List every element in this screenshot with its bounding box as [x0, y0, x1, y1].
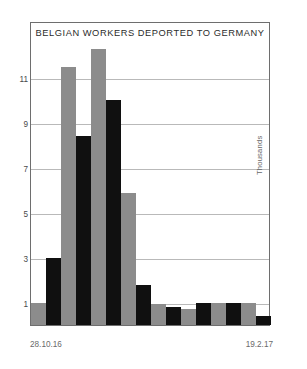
y-tick-label: 11 [6, 74, 28, 83]
y-tick-label: 3 [6, 254, 28, 263]
bar [211, 303, 226, 325]
page-title: BELGIAN WORKERS DEPORTED TO GERMANY [36, 28, 265, 38]
y-axis-unit-label: Thousands [255, 136, 264, 175]
bar [61, 67, 76, 325]
y-tick-label: 5 [6, 209, 28, 218]
y-tick-label: 7 [6, 164, 28, 173]
bar [226, 303, 241, 325]
bar [151, 304, 166, 325]
bar [181, 309, 196, 325]
bar [166, 307, 181, 325]
x-axis-start-label: 28.10.16 [30, 340, 62, 349]
bar [106, 100, 121, 325]
x-axis-end-label: 19.2.17 [246, 340, 273, 349]
bar [196, 303, 211, 325]
bar [121, 193, 136, 326]
y-tick-label: 9 [6, 119, 28, 128]
bar [91, 49, 106, 325]
plot-area [30, 43, 270, 326]
bar [76, 136, 91, 325]
bar [256, 316, 271, 325]
chart-page: BELGIAN WORKERS DEPORTED TO GERMANY 1357… [0, 0, 307, 369]
chart-title-box: BELGIAN WORKERS DEPORTED TO GERMANY [30, 22, 270, 44]
bar [46, 258, 61, 325]
bar [241, 303, 256, 325]
bar-series [31, 43, 269, 325]
bar [136, 285, 151, 325]
bar [31, 303, 46, 326]
y-tick-label: 1 [6, 299, 28, 308]
